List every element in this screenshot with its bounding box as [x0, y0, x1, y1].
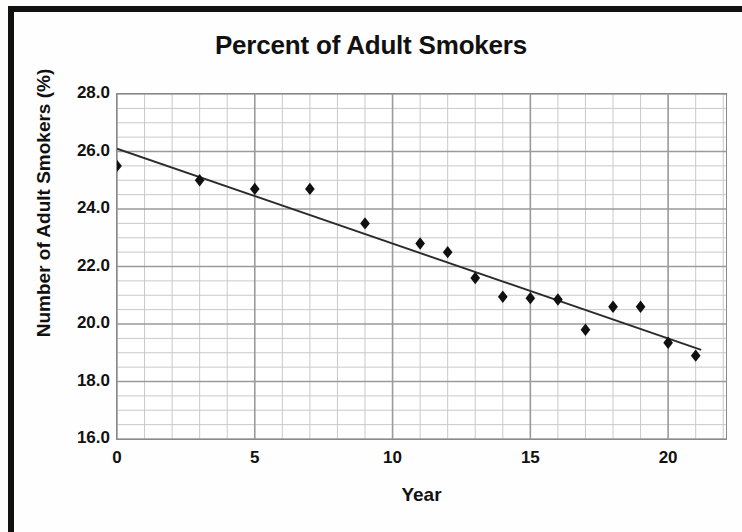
x-axis-title: Year — [116, 484, 727, 506]
x-axis-tick-labels: 05101520 — [116, 448, 727, 476]
chart-title: Percent of Adult Smokers — [14, 30, 728, 61]
y-axis-tick-labels: 16.018.020.022.024.026.028.0 — [34, 84, 110, 451]
x-axis-tick-label: 5 — [225, 448, 285, 468]
x-axis-tick-label: 0 — [87, 448, 147, 468]
x-axis-tick-label: 10 — [363, 448, 423, 468]
scanned-page-frame: Percent of Adult Smokers Number of Adult… — [0, 0, 742, 532]
y-axis-tick-label: 26.0 — [34, 141, 110, 161]
plot-area — [116, 93, 727, 440]
x-axis-tick-label: 20 — [638, 448, 698, 468]
major-gridlines — [117, 94, 726, 439]
y-axis-tick-label: 20.0 — [34, 313, 110, 333]
y-axis-tick-label: 28.0 — [34, 83, 110, 103]
y-axis-tick-label: 24.0 — [34, 198, 110, 218]
y-axis-tick-label: 16.0 — [34, 428, 110, 448]
trendline — [117, 149, 701, 350]
scatter-plot-svg — [117, 94, 726, 439]
x-axis-tick-label: 15 — [500, 448, 560, 468]
y-axis-tick-label: 18.0 — [34, 371, 110, 391]
chart-figure: Percent of Adult Smokers Number of Adult… — [14, 12, 742, 532]
y-axis-tick-label: 22.0 — [34, 256, 110, 276]
